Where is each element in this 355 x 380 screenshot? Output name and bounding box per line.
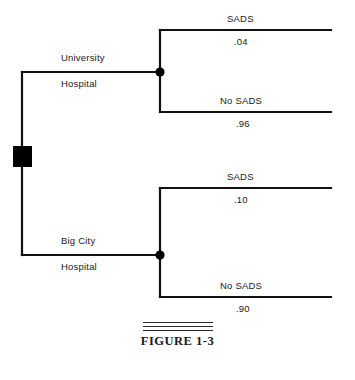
outcome-label-sads-upper: SADS bbox=[227, 13, 254, 24]
outcome-probability-nosads-upper: .96 bbox=[236, 118, 250, 129]
branch-label-bigcity-line1: Big City bbox=[61, 235, 95, 246]
branch-label-university-line1: University bbox=[61, 52, 105, 63]
outcome-label-nosads-lower: No SADS bbox=[220, 280, 262, 291]
outcome-probability-sads-upper: .04 bbox=[234, 36, 248, 47]
chance-node-bigcity bbox=[155, 250, 164, 259]
caption-rule-1 bbox=[143, 322, 213, 323]
figure-caption-text: FIGURE 1-3 bbox=[0, 334, 355, 349]
outcome-probability-nosads-lower: .90 bbox=[236, 303, 250, 314]
outcome-label-nosads-upper: No SADS bbox=[220, 95, 262, 106]
outcome-label-sads-lower: SADS bbox=[227, 171, 254, 182]
outcome-probability-sads-lower: .10 bbox=[234, 194, 248, 205]
chance-node-university bbox=[155, 67, 164, 76]
decision-node-square bbox=[13, 146, 32, 167]
branch-label-university-line2: Hospital bbox=[61, 78, 97, 89]
caption-rules bbox=[143, 322, 213, 331]
caption-rule-2 bbox=[143, 326, 213, 327]
figure-caption-block: FIGURE 1-3 bbox=[0, 322, 355, 349]
decision-tree-figure: University Hospital Big City Hospital SA… bbox=[0, 0, 355, 380]
branch-label-bigcity-line2: Hospital bbox=[61, 261, 97, 272]
caption-rule-3 bbox=[143, 330, 213, 331]
